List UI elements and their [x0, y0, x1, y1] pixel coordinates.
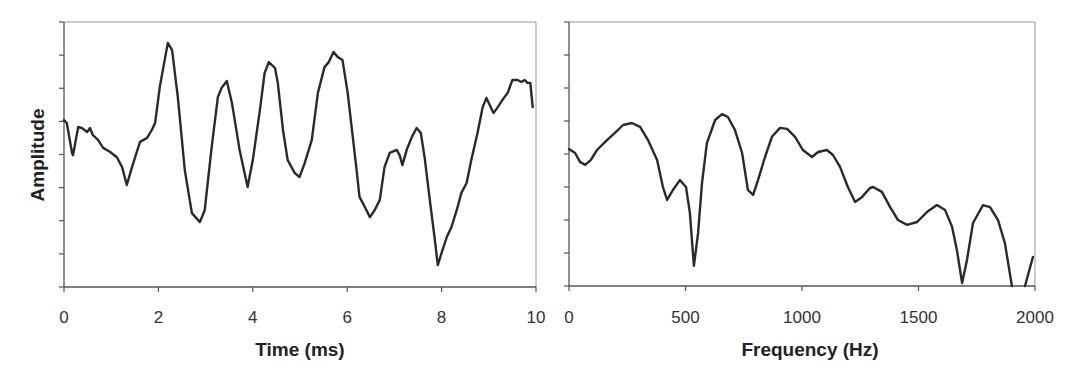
- y-ticks: [564, 22, 569, 286]
- y-ticks: [59, 22, 64, 287]
- x-axis-title: Time (ms): [255, 339, 344, 360]
- x-tick-label: 0: [564, 308, 573, 327]
- waveform-line: [64, 43, 533, 265]
- time-domain-plot: 0246810 Time (ms) Amplitude: [27, 22, 545, 360]
- x-tick-label: 1500: [900, 308, 938, 327]
- x-ticks: [64, 287, 536, 292]
- x-ticks: [569, 286, 1035, 291]
- x-tick-label: 500: [671, 308, 699, 327]
- x-tick-label: 10: [527, 308, 546, 327]
- x-axis-title: Frequency (Hz): [741, 339, 878, 360]
- x-tick-label: 4: [248, 308, 257, 327]
- x-tick-label: 0: [59, 308, 68, 327]
- x-tick-label: 2: [154, 308, 163, 327]
- x-tick-labels: 0500100015002000: [564, 308, 1054, 327]
- x-tick-label: 2000: [1016, 308, 1054, 327]
- x-tick-label: 6: [342, 308, 351, 327]
- x-tick-label: 1000: [783, 308, 821, 327]
- y-axis-title: Amplitude: [27, 109, 48, 202]
- frequency-spectrum-plot: 0500100015002000 Frequency (Hz): [564, 22, 1054, 360]
- x-tick-labels: 0246810: [59, 308, 545, 327]
- x-tick-label: 8: [437, 308, 446, 327]
- spectrum-line: [569, 114, 1033, 286]
- figure: 0246810 Time (ms) Amplitude 050010001500…: [0, 0, 1083, 373]
